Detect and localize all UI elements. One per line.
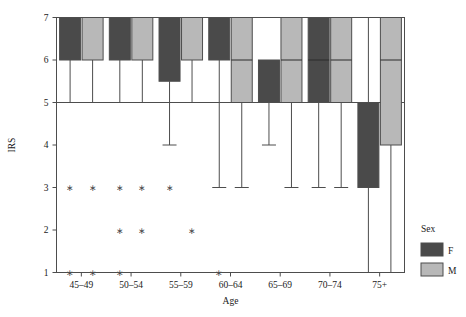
y-tick-label: 7 — [44, 13, 49, 23]
box-M-45_49: ∗∗ — [82, 18, 103, 279]
box-rect-M — [182, 18, 203, 61]
box-group-55_59: ∗∗ — [159, 18, 203, 236]
box-rect-F — [209, 18, 230, 61]
legend-label-M: M — [448, 266, 457, 276]
box-group-75+ — [358, 18, 402, 273]
box-F-75+ — [358, 18, 379, 273]
x-tick-label-0: 45–49 — [69, 280, 93, 290]
outlier-marker: ∗ — [138, 183, 146, 193]
outlier-marker: ∗ — [215, 268, 223, 278]
x-tick-label-3: 60–64 — [219, 280, 243, 290]
outlier-marker: ∗ — [89, 268, 97, 278]
box-rect-F — [358, 103, 379, 188]
panel-border — [57, 18, 405, 273]
legend-label-F: F — [448, 246, 453, 256]
panel-border-group — [57, 18, 405, 273]
outlier-marker: ∗ — [138, 226, 146, 236]
box-F-50_54: ∗∗∗ — [109, 18, 130, 279]
outlier-marker: ∗ — [66, 268, 74, 278]
legend: SexFM — [421, 224, 457, 276]
x-tick-label-6: 75+ — [372, 280, 387, 290]
box-rect-F — [109, 18, 130, 61]
box-M-75+ — [380, 18, 401, 273]
box-rect-M — [82, 18, 103, 61]
outlier-marker: ∗ — [116, 268, 124, 278]
x-tick-label-4: 65–69 — [268, 280, 292, 290]
x-tick-label-2: 55–59 — [169, 280, 193, 290]
box-rect-F — [258, 60, 279, 103]
box-F-55_59: ∗ — [159, 18, 180, 194]
box-rect-F — [159, 18, 180, 82]
box-M-70_74 — [331, 18, 352, 188]
y-tick-label: 5 — [44, 98, 49, 108]
outlier-marker: ∗ — [116, 183, 124, 193]
x-tick-label-1: 50–54 — [119, 280, 143, 290]
legend-swatch-F — [421, 243, 443, 256]
box-rect-M — [380, 18, 401, 146]
y-axis-title: IRS — [7, 138, 17, 153]
box-rect-M — [132, 18, 153, 61]
y-axis: 1234567 — [44, 13, 57, 278]
y-tick-label: 6 — [44, 55, 49, 65]
box-M-65_69 — [281, 18, 302, 188]
y-tick-label: 2 — [44, 225, 49, 235]
box-groups: ∗∗∗∗∗∗∗∗∗∗∗∗ — [60, 18, 402, 279]
outlier-marker: ∗ — [89, 183, 97, 193]
boxplot-chart: ∗∗∗∗∗∗∗∗∗∗∗∗ 1234567 45–4950–5455–5960–6… — [0, 0, 466, 317]
box-F-65_69 — [258, 60, 279, 145]
y-tick-label: 3 — [44, 183, 49, 193]
box-F-45_49: ∗∗ — [60, 18, 81, 279]
x-tick-label-5: 70–74 — [318, 280, 342, 290]
outlier-marker: ∗ — [66, 183, 74, 193]
x-axis-title: Age — [223, 296, 239, 306]
outlier-marker: ∗ — [166, 183, 174, 193]
box-rect-F — [60, 18, 81, 61]
outlier-marker: ∗ — [188, 226, 196, 236]
box-F-60_64: ∗ — [209, 18, 230, 279]
boxplot-svg: ∗∗∗∗∗∗∗∗∗∗∗∗ 1234567 45–4950–5455–5960–6… — [0, 0, 466, 317]
legend-title: Sex — [421, 224, 436, 234]
box-group-45_49: ∗∗∗∗ — [60, 18, 103, 279]
box-M-55_59: ∗ — [182, 18, 203, 236]
outlier-marker: ∗ — [116, 226, 124, 236]
box-group-50_54: ∗∗∗∗∗ — [109, 18, 153, 279]
legend-swatch-M — [421, 263, 443, 276]
box-F-70_74 — [308, 18, 329, 188]
y-tick-label: 1 — [44, 268, 49, 278]
box-group-60_64: ∗ — [209, 18, 253, 279]
box-M-60_64 — [231, 18, 252, 188]
box-M-50_54: ∗∗ — [132, 18, 153, 236]
y-tick-label: 4 — [44, 140, 49, 150]
